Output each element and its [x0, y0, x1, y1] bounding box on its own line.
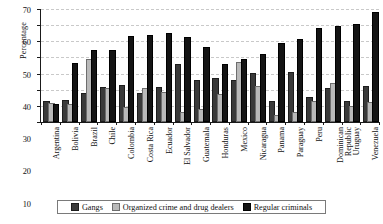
- x-axis-category-label: Panama: [278, 127, 287, 153]
- x-axis-category-label: El Salvador: [184, 127, 193, 165]
- x-axis-category-label: Mexico: [241, 127, 250, 152]
- bar-group: [363, 9, 377, 122]
- bar: [241, 59, 247, 122]
- bar-group: [137, 9, 151, 122]
- bar: [147, 35, 153, 122]
- x-axis-category-label: Chile: [109, 127, 118, 145]
- bar-group: [194, 9, 208, 122]
- x-axis-tick: [79, 122, 80, 125]
- y-axis-tick-label: 30: [23, 135, 31, 144]
- bar: [260, 54, 266, 122]
- x-axis-tick: [379, 122, 380, 125]
- y-axis-tick-label: 70: [23, 6, 31, 15]
- x-axis-tick: [135, 122, 136, 125]
- bar-group: [81, 9, 95, 122]
- bar: [91, 50, 97, 122]
- x-axis-category-label: Ecuador: [166, 127, 175, 154]
- x-axis-tick: [285, 122, 286, 125]
- bar: [222, 64, 228, 123]
- x-axis-category-label: Argentina: [53, 127, 62, 159]
- bar: [53, 104, 59, 122]
- legend-swatch-icon: [112, 203, 120, 211]
- x-axis-tick: [60, 122, 61, 125]
- x-axis-category-label: Nicaragua: [260, 127, 269, 160]
- x-axis-category-label: Colombia: [128, 127, 137, 159]
- x-axis-tick: [97, 122, 98, 125]
- bar: [184, 37, 190, 122]
- x-axis-category-label: DominicanRepublic: [337, 127, 354, 163]
- legend-item: Gangs: [71, 203, 103, 212]
- bar-group: [156, 9, 170, 122]
- y-axis-tick-label: 60: [23, 38, 31, 47]
- legend-label: Gangs: [82, 203, 103, 212]
- x-axis-tick: [248, 122, 249, 125]
- x-axis-tick: [191, 122, 192, 125]
- x-axis-category-label: Honduras: [222, 127, 231, 158]
- x-axis-tick: [323, 122, 324, 125]
- plot-area: 010203040506070 ArgentinaBoliviaBrazilCh…: [40, 9, 379, 123]
- bar: [353, 24, 359, 122]
- y-axis-tick-label: 40: [23, 102, 31, 111]
- bar-group: [62, 9, 76, 122]
- bar: [203, 47, 209, 122]
- bar: [316, 28, 322, 122]
- bar-group: [43, 9, 57, 122]
- bar: [297, 39, 303, 122]
- legend-item: Regular criminals: [243, 203, 312, 212]
- x-axis-category-label: Uruguay: [353, 127, 362, 155]
- x-axis-tick: [210, 122, 211, 125]
- x-axis-tick: [342, 122, 343, 125]
- x-axis-category-label: Peru: [316, 127, 325, 142]
- x-axis-category-label: Bolivia: [72, 127, 81, 151]
- legend-swatch-icon: [71, 203, 79, 211]
- bar-group: [100, 9, 114, 122]
- bar-group: [344, 9, 358, 122]
- bar: [128, 36, 134, 122]
- bar: [109, 50, 115, 122]
- bar-chart-figure: Percentage 010203040506070 ArgentinaBoli…: [0, 0, 383, 224]
- bar-group: [212, 9, 226, 122]
- bar: [335, 26, 341, 122]
- x-axis-tick: [304, 122, 305, 125]
- x-axis-tick: [360, 122, 361, 125]
- bar-group: [288, 9, 302, 122]
- x-axis-category-label: Brazil: [91, 127, 100, 147]
- bar: [278, 43, 284, 122]
- bar-group: [306, 9, 320, 122]
- x-axis-tick: [154, 122, 155, 125]
- y-axis-tick-label: 50: [23, 70, 31, 79]
- legend-label: Organized crime and drug dealers: [123, 203, 234, 212]
- x-axis-category-label: Paraguay: [297, 127, 306, 157]
- bar-group: [269, 9, 283, 122]
- x-axis-category-label: Venezuela: [372, 127, 381, 160]
- legend-label: Regular criminals: [254, 203, 312, 212]
- legend-swatch-icon: [243, 203, 251, 211]
- x-axis-tick: [116, 122, 117, 125]
- legend-item: Organized crime and drug dealers: [112, 203, 234, 212]
- x-axis-tick: [229, 122, 230, 125]
- bar: [72, 63, 78, 122]
- x-axis-category-label: Guatemala: [203, 127, 212, 162]
- bar-group: [231, 9, 245, 122]
- y-axis-tick-label: 20: [23, 167, 31, 176]
- y-axis-tick-label: 10: [23, 199, 31, 208]
- x-axis-tick: [266, 122, 267, 125]
- bar-group: [175, 9, 189, 122]
- bar-group: [250, 9, 264, 122]
- bar-group: [325, 9, 339, 122]
- x-axis-tick: [41, 122, 42, 125]
- bars-container: [41, 9, 379, 122]
- chart-legend: GangsOrganized crime and drug dealersReg…: [57, 200, 326, 214]
- bar: [166, 33, 172, 122]
- x-axis-tick: [173, 122, 174, 125]
- bar: [372, 12, 378, 122]
- x-axis-category-label: Costa Rica: [147, 127, 156, 162]
- bar-group: [119, 9, 133, 122]
